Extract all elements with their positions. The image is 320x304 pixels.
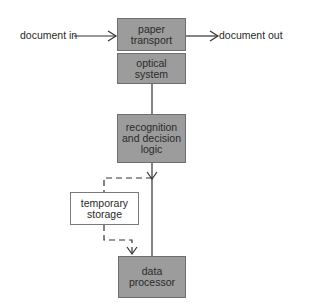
paper-transport-box: paper transport <box>117 18 186 51</box>
optical-system-box: optical system <box>117 53 186 84</box>
document-in-label: document in <box>20 29 77 41</box>
data-processor-box: data processor <box>118 256 186 298</box>
recognition-label: recognition and decision logic <box>121 122 183 155</box>
temporary-storage-box: temporary storage <box>70 192 139 225</box>
data-processor-label: data processor <box>124 266 180 288</box>
paper-transport-label: paper transport <box>127 24 177 46</box>
optical-system-label: optical system <box>127 58 177 80</box>
document-out-label: document out <box>219 29 283 41</box>
recognition-box: recognition and decision logic <box>117 114 186 163</box>
temporary-storage-label: temporary storage <box>75 198 135 220</box>
